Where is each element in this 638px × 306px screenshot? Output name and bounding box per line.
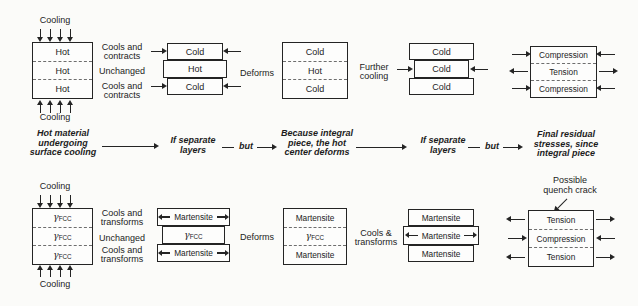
left-arrow-icon (601, 238, 615, 239)
martensite-label: Martensite (174, 248, 213, 258)
layer-row: Martensite (284, 209, 346, 227)
quench-residual-stress-diagram: Cooling Hot Hot Hot Cooling Cools and co… (0, 0, 638, 306)
layer-row: Hot (33, 79, 92, 98)
up-arrow-icon (40, 270, 41, 277)
cooling-label-top: Cooling (25, 15, 85, 25)
layer-row: Martensite (158, 245, 229, 261)
down-arrow-icon (70, 195, 71, 203)
fcc-subscript: FCC (311, 235, 324, 241)
layer-row: Cold (283, 43, 347, 61)
cold-layer-box: Cold (167, 78, 223, 95)
layer-row: Cold (415, 61, 468, 77)
deforms-label: Deforms (231, 68, 283, 78)
flow-arrow-icon (503, 147, 518, 148)
layer-row: Hot (164, 61, 226, 77)
right-arrow-icon (512, 88, 526, 89)
layer-row: Cold (410, 44, 473, 59)
unchanged-label: Unchanged (94, 233, 150, 243)
caption-line: layers (413, 146, 473, 156)
right-arrow-icon (397, 69, 408, 70)
fcc-subscript: FCC (59, 254, 72, 260)
but-label: but (482, 142, 502, 152)
layer-row: Hot (33, 61, 92, 80)
down-arrow-icon (50, 195, 51, 203)
caption-line: surface cooling (23, 148, 103, 158)
down-arrow-icon (40, 195, 41, 203)
flow-arrow-icon (356, 147, 402, 148)
layer-gamma-fcc: γFCC (33, 245, 92, 264)
right-arrow-icon (596, 257, 610, 258)
layer-row: Compression (531, 47, 596, 63)
but-label: but (236, 142, 256, 152)
layer-row: Martensite (158, 209, 229, 225)
right-arrow-icon (151, 51, 162, 52)
cooling-label-bottom: Cooling (25, 279, 85, 289)
cooling-label-top: Cooling (25, 181, 85, 191)
left-arrow-icon (511, 257, 525, 258)
down-arrow-icon (40, 29, 41, 37)
cold-layer-box: Cold (409, 43, 474, 60)
austenite-layer-box: γFCC (162, 226, 225, 244)
up-arrow-icon (70, 270, 71, 277)
austenite-box: γFCC γFCC γFCC (32, 208, 93, 265)
flow-arrow-icon (102, 146, 154, 147)
cold-layer-box: Cold (167, 43, 223, 60)
quench-crack-note: Possible (532, 175, 608, 185)
right-arrow-icon (217, 216, 225, 217)
martensite-layer-box: Martensite (408, 245, 474, 262)
left-arrow-icon (514, 71, 528, 72)
cools-contracts-label: contracts (94, 51, 150, 61)
left-arrow-icon (475, 69, 488, 70)
cools-contracts-label: contracts (94, 90, 150, 100)
right-arrow-icon (151, 86, 162, 87)
left-arrow-icon (162, 252, 170, 253)
fcc-subscript: FCC (190, 234, 203, 240)
left-arrow-icon (409, 235, 418, 236)
integral-box: Cold Hot Cold (282, 42, 348, 99)
cools-transforms-label: transforms (94, 254, 150, 264)
residual-stress-box: Compression Tension Compression (530, 46, 597, 98)
layer-row: Martensite (284, 245, 346, 264)
layer-row: Hot (283, 61, 347, 80)
layer-row: Compression (531, 80, 596, 97)
layer-gamma-fcc: γFCC (33, 209, 92, 227)
cooling-label-bottom: Cooling (25, 112, 85, 122)
layer-row: Cold (283, 79, 347, 98)
left-arrow-icon (601, 54, 615, 55)
down-arrow-icon (60, 195, 61, 203)
layer-row: Hot (33, 43, 92, 61)
caption-line: layers (163, 146, 223, 156)
down-arrow-icon (60, 29, 61, 37)
quench-crack-note: quench crack (532, 185, 608, 195)
layer-gamma-fcc: γFCC (163, 227, 224, 243)
right-arrow-icon (217, 252, 225, 253)
flow-caption: Final residual stresses, since integral … (526, 130, 606, 159)
layer-row: Martensite (404, 227, 478, 244)
dash-line (468, 147, 480, 148)
layer-row: Tension (529, 211, 593, 229)
layer-gamma-fcc: γFCC (284, 227, 346, 246)
martensite-layer-box: Martensite (403, 226, 479, 245)
up-arrow-icon (60, 270, 61, 277)
layer-row: Martensite (409, 246, 473, 261)
layer-gamma-fcc: γFCC (33, 227, 92, 246)
left-arrow-icon (228, 51, 241, 52)
down-arrow-icon (50, 29, 51, 37)
layer-row: Tension (529, 247, 593, 266)
martensite-layer-box: Martensite (157, 244, 230, 262)
martensite-label: Martensite (422, 231, 461, 241)
right-arrow-icon (596, 219, 610, 220)
dash-line (222, 147, 234, 148)
martensite-layer-box: Martensite (157, 208, 230, 226)
further-cooling-label: cooling (351, 71, 397, 81)
caption-line: integral piece (526, 149, 606, 159)
fcc-subscript: FCC (59, 216, 72, 222)
cold-layer-box: Cold (409, 78, 474, 95)
layer-row: Martensite (409, 210, 473, 225)
up-arrow-icon (50, 270, 51, 277)
left-arrow-icon (228, 86, 241, 87)
layer-row: Cold (410, 79, 473, 94)
flow-caption: Because integral piece, the hot center d… (277, 129, 357, 158)
layer-row: Cold (168, 79, 222, 94)
layer-row: Tension (531, 63, 596, 80)
